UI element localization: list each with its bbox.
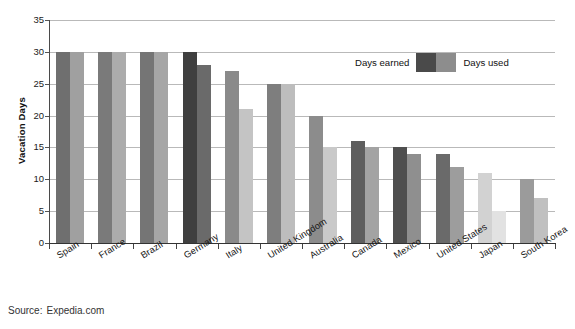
bar-days-earned [98, 52, 112, 243]
bar-days-used [70, 52, 84, 243]
source-value: Expedia.com [46, 305, 104, 316]
x-axis-tick-mark [344, 244, 345, 249]
bar-group [140, 20, 168, 243]
bar-group [267, 20, 295, 243]
x-axis-tick-mark [513, 244, 514, 249]
bar-days-earned [140, 52, 154, 243]
bar-group [225, 20, 253, 243]
y-axis-tick-mark [45, 20, 49, 21]
y-axis-tick-labels: 05101520253035 [14, 0, 44, 260]
x-axis-tick-mark [429, 244, 430, 249]
y-axis-tick-mark [45, 52, 49, 53]
bar-group [183, 20, 211, 243]
y-axis-tick-label: 25 [20, 78, 44, 89]
bar-days-used [112, 52, 126, 243]
y-axis-tick-mark [45, 179, 49, 180]
y-axis-tick-label: 10 [20, 173, 44, 184]
bar-days-used [365, 147, 379, 243]
y-axis-tick-mark [45, 84, 49, 85]
y-axis-tick-mark [45, 211, 49, 212]
y-axis-tick-label: 15 [20, 141, 44, 152]
bar-days-used [281, 84, 295, 243]
bar-days-earned [351, 141, 365, 243]
source-note: Source:Expedia.com [8, 305, 104, 316]
bar-days-earned [436, 154, 450, 243]
x-axis-tick-mark [218, 244, 219, 249]
y-axis-tick-label: 20 [20, 110, 44, 121]
y-axis-line [49, 20, 50, 244]
legend-label-used: Days used [463, 57, 508, 68]
bar-days-used [323, 147, 337, 243]
y-axis-tick-label: 35 [20, 14, 44, 25]
bar-days-used [407, 154, 421, 243]
bar-group [56, 20, 84, 243]
x-axis-tick-mark [49, 244, 50, 249]
y-axis-tick-label: 5 [20, 205, 44, 216]
bar-days-earned [393, 147, 407, 243]
y-axis-tick-mark [45, 147, 49, 148]
legend-swatch-used [436, 53, 456, 72]
x-axis-tick-mark [91, 244, 92, 249]
bar-days-used [197, 65, 211, 243]
bar-group [520, 20, 548, 243]
chart-figure: Average Vacation Days Earned and Used pe… [0, 0, 575, 329]
bar-days-earned [183, 52, 197, 243]
bar-days-used [239, 109, 253, 243]
bar-days-earned [56, 52, 70, 243]
x-axis-category-label: Italy [224, 243, 244, 261]
legend-swatch-earned [416, 53, 436, 72]
bar-days-earned [267, 84, 281, 243]
bar-days-used [154, 52, 168, 243]
x-axis-tick-mark [133, 244, 134, 249]
source-label: Source: [8, 305, 42, 316]
y-axis-tick-mark [45, 243, 49, 244]
x-axis-tick-mark [302, 244, 303, 249]
bar-days-earned [520, 179, 534, 243]
x-axis-tick-mark [386, 244, 387, 249]
x-axis-tick-mark [176, 244, 177, 249]
x-axis-tick-mark [471, 244, 472, 249]
bar-days-earned [225, 71, 239, 243]
legend-label-earned: Days earned [355, 57, 409, 68]
bar-group [98, 20, 126, 243]
y-axis-tick-label: 0 [20, 237, 44, 248]
bar-group [309, 20, 337, 243]
y-axis-tick-mark [45, 116, 49, 117]
x-axis-tick-mark [260, 244, 261, 249]
y-axis-tick-label: 30 [20, 46, 44, 57]
x-axis-tick-mark [555, 244, 556, 249]
chart-legend: Days earned Days used [355, 52, 509, 72]
bar-days-used [450, 167, 464, 243]
